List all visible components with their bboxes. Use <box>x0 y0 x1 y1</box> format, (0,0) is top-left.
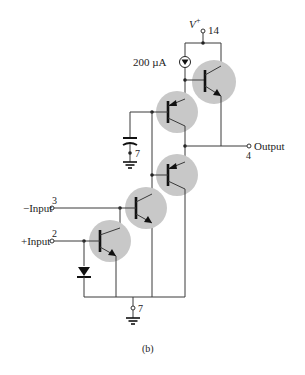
output-pin: 4 <box>246 150 251 161</box>
ground-icon <box>126 318 140 324</box>
inverting-input-pin: 3 <box>52 195 57 206</box>
upper-pnp-transistor <box>152 91 198 163</box>
supply-superscript: + <box>196 16 201 25</box>
capacitor-ground-pin: 7 <box>135 148 140 159</box>
compensation-capacitor: 7 <box>123 112 140 168</box>
bottom-ground-pin: 7 <box>138 303 143 314</box>
supply-terminal: V + 14 <box>189 16 220 43</box>
bottom-ground: 7 <box>126 303 143 324</box>
middle-npn-transistor <box>120 187 167 229</box>
input-npn-transistor <box>84 220 131 297</box>
circuit-diagram: V + 14 200 µA <box>0 0 305 375</box>
lower-pnp-transistor <box>152 154 198 297</box>
supply-pin: 14 <box>208 24 220 36</box>
output-terminal: Output 4 <box>246 140 285 161</box>
inverting-input-label: −Input <box>23 202 52 214</box>
noninverting-input-terminal: +Input 2 <box>21 228 57 247</box>
inverting-input-terminal: −Input 3 <box>23 195 57 214</box>
noninverting-input-label: +Input <box>21 235 50 247</box>
figure-caption: (b) <box>142 343 154 355</box>
input-diode <box>77 241 91 297</box>
output-label: Output <box>254 140 285 152</box>
noninverting-input-pin: 2 <box>52 228 57 239</box>
ground-icon <box>123 162 137 168</box>
current-source: 200 µA <box>133 43 191 99</box>
current-source-label: 200 µA <box>133 56 167 68</box>
